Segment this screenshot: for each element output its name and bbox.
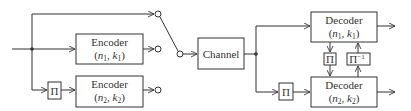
decoder-1-params: (n1, k1) <box>329 27 360 41</box>
encoder-1: Encoder (n1, k1) <box>32 34 161 64</box>
encoder-2-params: (n2, k2) <box>94 91 125 105</box>
encoder-2-label: Encoder <box>91 78 128 90</box>
decoder-interleaver-label: Π <box>282 86 290 98</box>
channel: Channel <box>198 26 258 92</box>
encoder-1-label: Encoder <box>91 36 128 48</box>
input-line <box>12 14 34 90</box>
systematic-branch <box>32 11 161 17</box>
decoder-1-label: Decoder <box>325 14 363 26</box>
encoder-2: Π Encoder (n2, k2) <box>32 76 161 107</box>
encoder-1-params: (n1, k1) <box>94 49 125 63</box>
decoder-feedback: Π Π−1 <box>324 42 370 77</box>
switch-pivot <box>177 51 183 57</box>
feedback-interleaver-label: Π <box>326 53 334 65</box>
switch-contact-bottom <box>155 87 161 93</box>
decoder-2: Π Decoder (n2, k2) <box>256 77 395 107</box>
switch-contact-middle <box>155 46 161 52</box>
switch-contact-top <box>155 11 161 17</box>
interleaver-label: Π <box>51 85 59 97</box>
decoder-1: Decoder (n1, k1) <box>256 12 395 42</box>
turbo-code-diagram: Encoder (n1, k1) Π Encoder (n2, k2) Chan… <box>0 0 411 111</box>
multiplexer-switch <box>160 17 197 57</box>
decoder-2-params: (n2, k2) <box>329 92 360 106</box>
channel-label: Channel <box>203 48 240 60</box>
decoder-2-label: Decoder <box>325 79 363 91</box>
